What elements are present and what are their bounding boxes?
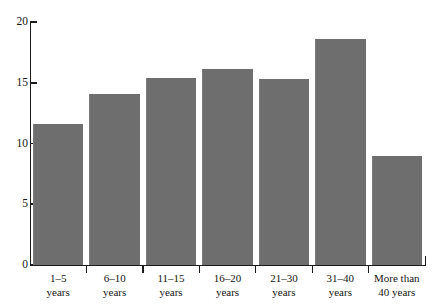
bar [259, 79, 309, 265]
y-axis-tick-label: 0 [0, 259, 28, 271]
y-axis-tick-label: 20 [0, 16, 28, 28]
bar [33, 124, 83, 265]
bar [89, 94, 139, 265]
plot-area [30, 22, 425, 265]
bar [315, 39, 365, 265]
x-axis-category-label: More than 40 years [363, 272, 431, 299]
bar [146, 78, 196, 265]
y-axis-tick-label: 10 [0, 138, 28, 150]
bar [202, 69, 252, 265]
bar [372, 156, 422, 265]
y-axis-tick-label: 5 [0, 198, 28, 210]
bar-chart: 05101520 1–5 years6–10 years11–15 years1… [0, 0, 440, 307]
y-axis-tick-label: 15 [0, 77, 28, 89]
